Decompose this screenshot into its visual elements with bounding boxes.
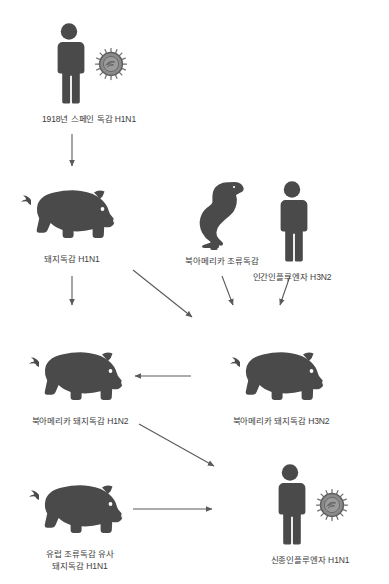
- node-label: 북아메리카 돼지독감 H3N2: [233, 415, 330, 427]
- node-label-line2: 돼지독감 H1N1: [46, 560, 114, 572]
- node-label: 신종인플루엔자 H1N1: [271, 554, 350, 566]
- node-spanish-flu-1918: 1918년 스페인 독감 H1N1: [14, 22, 164, 125]
- node-label: 1918년 스페인 독감 H1N1: [42, 113, 136, 125]
- arrow-swine-to-mix: [133, 270, 192, 317]
- node-label: 돼지독감 H1N1: [44, 253, 99, 265]
- pig-icon: [19, 180, 125, 246]
- node-icons: [271, 463, 349, 547]
- pig-icon: [228, 342, 334, 408]
- human-icon: [271, 463, 309, 547]
- pig-icon: [27, 475, 133, 541]
- node-european-avian-like-swine-h1n1: 유럽 조류독감 유사 돼지독감 H1N1: [14, 475, 146, 572]
- arrow-h1n2-to-novel: [139, 424, 214, 466]
- node-label-line1: 유럽 조류독감 유사: [46, 549, 114, 559]
- node-novel-influenza-h1n1: 신종인플루엔자 H1N1: [240, 463, 380, 566]
- node-label: 북아메리카 돼지독감 H1N2: [32, 415, 129, 427]
- node-label: 인간인플루엔자 H3N2: [253, 271, 332, 283]
- node-swine-flu-h1n1: 돼지독감 H1N1: [4, 180, 140, 265]
- node-human-influenza-h3n2: 인간인플루엔자 H3N2: [228, 180, 356, 283]
- virus-icon: [94, 47, 128, 81]
- node-icons: [50, 22, 128, 106]
- human-icon: [50, 22, 88, 106]
- node-north-american-swine-h1n2: 북아메리카 돼지독감 H1N2: [4, 342, 156, 427]
- virus-icon: [315, 488, 349, 522]
- human-icon: [273, 180, 311, 264]
- pig-icon: [27, 342, 133, 408]
- node-north-american-swine-h3n2: 북아메리카 돼지독감 H3N2: [205, 342, 357, 427]
- node-label: 유럽 조류독감 유사 돼지독감 H1N1: [46, 548, 114, 572]
- influenza-reassortment-diagram: 1918년 스페인 독감 H1N1 돼지독감 H1N1 북아메리카 조류독감 인…: [0, 0, 389, 584]
